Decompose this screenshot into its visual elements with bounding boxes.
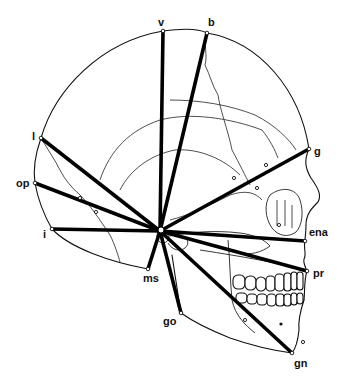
radial-line-go: [160, 231, 181, 313]
landmark-point-v: [161, 29, 165, 33]
landmark-label-pr: pr: [313, 267, 325, 279]
radial-line-ms: [148, 231, 160, 269]
center-point: [158, 227, 164, 233]
lower-teeth: [236, 293, 303, 306]
radial-line-l: [41, 138, 160, 231]
suture-point: [264, 163, 267, 166]
landmark-label-op: op: [16, 177, 30, 189]
landmark-label-ena: ena: [309, 226, 329, 238]
landmark-point-g: [307, 147, 311, 151]
landmark-point-ena: [303, 239, 307, 243]
suture-point: [243, 318, 246, 321]
landmark-label-gn: gn: [294, 357, 308, 369]
landmark-label-go: go: [163, 315, 177, 327]
sphenoid-line: [170, 192, 262, 220]
upper-teeth: [233, 272, 303, 291]
orbit-outline: [266, 189, 302, 235]
radial-line-b: [160, 33, 207, 231]
temporal-line: [120, 150, 240, 190]
suture-point: [301, 340, 304, 343]
landmark-label-i: i: [43, 228, 46, 240]
landmark-label-g: g: [314, 145, 321, 157]
cranial-vault-outline: [41, 29, 309, 149]
coronal-suture: [205, 33, 250, 185]
landmark-point-gn: [290, 351, 294, 355]
landmark-point-l: [39, 136, 43, 140]
landmark-point-ms: [146, 267, 150, 271]
landmark-label-b: b: [208, 16, 215, 28]
mental-foramen: [279, 322, 282, 325]
landmark-point-i: [50, 227, 54, 231]
parietal-arc: [100, 116, 278, 180]
radial-line-i: [52, 229, 160, 231]
radial-line-op: [35, 183, 160, 231]
radial-line-v: [160, 31, 163, 231]
radial-line-g: [160, 149, 309, 231]
landmark-point-pr: [305, 269, 309, 273]
suture-point: [78, 196, 81, 199]
landmark-label-ms: ms: [143, 272, 159, 284]
landmark-label-l: l: [32, 130, 35, 142]
suture-point: [94, 210, 97, 213]
landmark-point-b: [205, 31, 209, 35]
landmark-label-v: v: [158, 16, 165, 28]
landmark-point-go: [179, 311, 183, 315]
suture-point: [277, 223, 280, 226]
suture-point: [232, 176, 235, 179]
skull-diagram: vblopigenaprgngoms: [0, 0, 340, 377]
suture-point: [255, 186, 258, 189]
landmark-point-op: [33, 181, 37, 185]
